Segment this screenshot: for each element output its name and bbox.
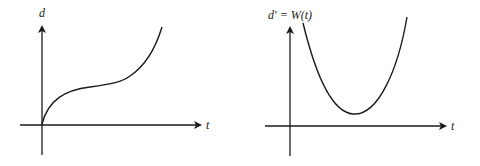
right-curve: [303, 17, 407, 114]
left-x-label: t: [206, 118, 210, 132]
left-graph: d t: [20, 6, 210, 155]
right-graph: d′ = W(t) t: [265, 8, 455, 156]
graphs-figure: d t d′ = W(t) t: [0, 0, 480, 166]
right-x-label: t: [451, 119, 455, 133]
left-curve: [42, 27, 162, 124]
left-y-label: d: [39, 6, 46, 20]
right-y-label: d′ = W(t): [268, 8, 312, 22]
